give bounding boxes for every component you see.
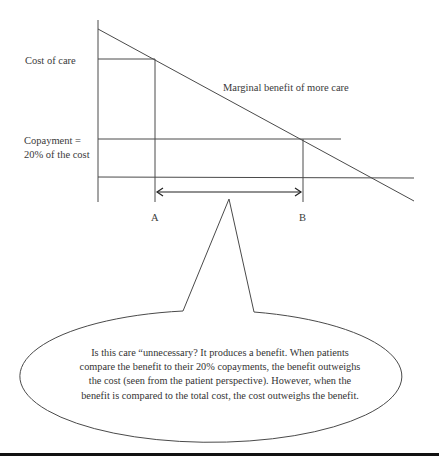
copayment-label-line2: 20% of the cost — [24, 148, 90, 161]
bottom-rule — [0, 453, 439, 456]
point-b-label: B — [299, 211, 306, 224]
baseline — [98, 177, 414, 178]
callout-text: Is this care “unnecessary? It produces a… — [78, 346, 362, 403]
marginal-benefit-curve — [98, 29, 414, 201]
callout-bubble — [20, 199, 402, 442]
cost-of-care-label: Cost of care — [25, 54, 76, 67]
curve-label: Marginal benefit of more care — [223, 81, 349, 94]
point-a-label: A — [151, 211, 159, 224]
copayment-label-line1: Copayment = — [24, 134, 81, 147]
